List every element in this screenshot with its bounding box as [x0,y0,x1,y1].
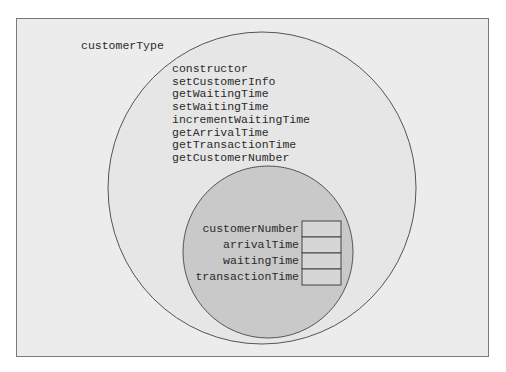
member-box-transactionTime [302,269,341,285]
member-label: transactionTime [183,269,301,285]
member-label: waitingTime [183,253,301,269]
member-box-waitingTime [302,253,341,269]
method-item: setWaitingTime [172,101,310,114]
member-value-boxes [302,221,341,285]
member-box-arrivalTime [302,237,341,253]
member-label: arrivalTime [183,237,301,253]
member-box-customerNumber [302,221,341,237]
method-list: constructor setCustomerInfo getWaitingTi… [172,63,310,165]
member-label: customerNumber [183,221,301,237]
class-name-label: customerType [81,39,164,52]
circles-layer [0,0,506,372]
method-item: constructor [172,63,310,76]
method-item: incrementWaitingTime [172,114,310,127]
member-list: customerNumber arrivalTime waitingTime t… [183,221,301,285]
method-item: getCustomerNumber [172,152,310,165]
